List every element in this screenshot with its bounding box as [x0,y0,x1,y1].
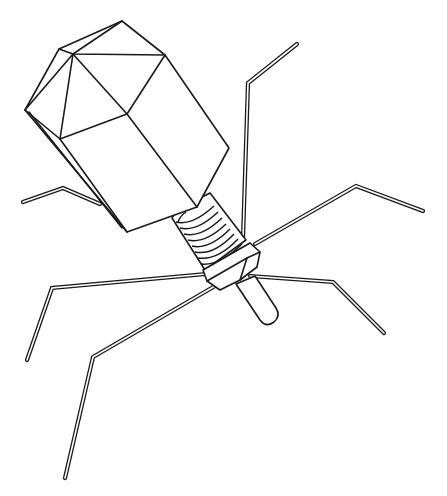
tail-fiber-left-upper [23,188,100,204]
tail-fiber-left-middle [27,274,206,360]
tail-tube [236,276,278,325]
tail-fiber-right-upper [255,186,423,244]
tail-fiber-top [243,44,297,238]
tail-fiber-left-lower [65,286,215,478]
bacteriophage-diagram [0,0,447,496]
head-capsid [25,21,229,232]
